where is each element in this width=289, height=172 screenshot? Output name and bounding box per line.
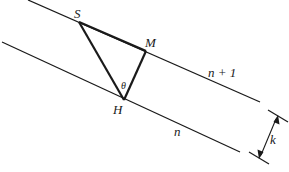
label-plane-n-plus-1: n + 1	[208, 65, 236, 80]
label-k: k	[270, 132, 276, 147]
label-m: M	[144, 35, 157, 50]
label-h: H	[112, 102, 123, 117]
label-theta: θ	[121, 80, 126, 91]
segment-sm	[79, 22, 146, 51]
segment-mh	[124, 51, 146, 100]
label-plane-n: n	[174, 124, 181, 139]
label-s: S	[74, 6, 81, 21]
lattice-plane-diagram: S M θ H n + 1 n k	[0, 0, 289, 172]
